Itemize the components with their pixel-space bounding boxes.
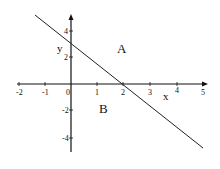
y-axis-label: y (57, 42, 63, 54)
x-tick-label: 1 (95, 88, 99, 97)
x-tick-label: -2 (16, 88, 23, 97)
y-tick-label: -2 (62, 106, 69, 115)
x-tick-label: 5 (201, 88, 205, 97)
x-tick-label: -1 (42, 88, 49, 97)
x-tick-label: 2 (121, 88, 125, 97)
y-tick-label: 2 (64, 53, 68, 62)
x-tick-label: 0 (66, 88, 70, 97)
region-b-label: B (99, 101, 108, 116)
y-axis-arrow-icon (69, 14, 74, 20)
coordinate-plane: -2 -1 0 1 2 3 4 5 4 2 -2 -4 x y A B (0, 0, 220, 169)
boundary-line (35, 15, 203, 148)
x-tick-label: 4 (175, 86, 179, 95)
region-a-label: A (117, 41, 127, 56)
x-tick-label: 3 (148, 88, 152, 97)
x-axis-label: x (163, 90, 169, 102)
y-tick-label: 4 (64, 27, 68, 36)
y-tick-label: -4 (62, 134, 69, 143)
